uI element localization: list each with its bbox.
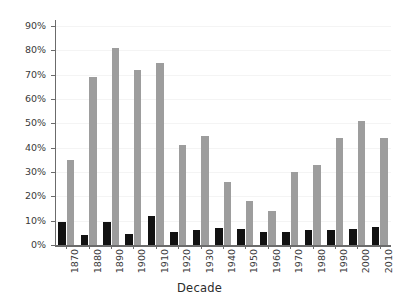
x-axis-tick-label: 1980: [317, 249, 327, 273]
x-axis-tick-mark: [178, 246, 179, 249]
bar-series-1-1950: [237, 229, 245, 245]
bar-series-2-1960: [268, 211, 276, 245]
bar-series-1-1960: [260, 232, 268, 245]
bar-series-1-1890: [103, 222, 111, 245]
x-axis-tick-mark: [357, 246, 358, 249]
plot-area: [55, 20, 391, 245]
bar-group: [260, 20, 276, 245]
bar-series-2-1980: [313, 165, 321, 245]
bar-series-1-1970: [282, 232, 290, 245]
bar-series-1-2000: [349, 229, 357, 245]
bar-series-2-1930: [201, 136, 209, 246]
bar-series-1-1930: [193, 230, 201, 245]
x-axis-tick-mark: [201, 246, 202, 249]
bar-group: [282, 20, 298, 245]
bar-series-1-1990: [327, 230, 335, 245]
bar-series-2-1880: [89, 77, 97, 245]
x-axis-tick-mark: [66, 246, 67, 249]
x-axis-tick-label: 2000: [361, 249, 371, 273]
bar-series-2-1970: [291, 172, 299, 245]
bar-series-1-1980: [305, 230, 313, 245]
bar-series-2-1910: [156, 63, 164, 246]
x-axis-tick-mark: [245, 246, 246, 249]
y-axis-tick-label: 40%: [0, 143, 46, 153]
bar-group: [148, 20, 164, 245]
y-axis-tick-label: 10%: [0, 216, 46, 226]
bar-series-2-2010: [380, 138, 388, 245]
bar-chart: 0%10%20%30%40%50%60%70%80%90% 1870188018…: [0, 0, 399, 305]
bar-group: [103, 20, 119, 245]
x-axis-tick-label: 1990: [339, 249, 349, 273]
y-axis-tick-label: 20%: [0, 192, 46, 202]
bar-group: [193, 20, 209, 245]
bar-series-1-1900: [125, 234, 133, 245]
bar-series-2-1990: [336, 138, 344, 245]
bar-series-1-1880: [81, 235, 89, 245]
x-axis-tick-mark: [89, 246, 90, 249]
bar-series-2-2000: [358, 121, 366, 245]
x-axis-tick-mark: [380, 246, 381, 249]
x-axis-tick-label: 1960: [272, 249, 282, 273]
x-axis-title: Decade: [0, 281, 399, 295]
bar-group: [372, 20, 388, 245]
x-axis-tick-mark: [268, 246, 269, 249]
bar-series-1-1920: [170, 232, 178, 245]
y-axis-tick-label: 80%: [0, 46, 46, 56]
y-axis-tick-label: 70%: [0, 70, 46, 80]
bar-series-1-2010: [372, 227, 380, 245]
bar-group: [305, 20, 321, 245]
x-axis-tick-mark: [111, 246, 112, 249]
x-axis-tick-label: 1890: [115, 249, 125, 273]
bar-group: [58, 20, 74, 245]
bar-group: [215, 20, 231, 245]
y-axis-tick-label: 60%: [0, 94, 46, 104]
bar-series-1-1940: [215, 228, 223, 245]
x-axis-tick-label: 1930: [205, 249, 215, 273]
x-axis-tick-label: 1900: [137, 249, 147, 273]
x-axis-tick-label: 1970: [294, 249, 304, 273]
bar-group: [327, 20, 343, 245]
bar-group: [81, 20, 97, 245]
x-axis-tick-label: 1950: [249, 249, 259, 273]
x-axis-tick-label: 1910: [160, 249, 170, 273]
bar-series-2-1950: [246, 201, 254, 245]
bar-group: [125, 20, 141, 245]
x-axis-tick-label: 1870: [70, 249, 80, 273]
x-axis-tick-label: 2010: [384, 249, 394, 273]
y-axis-tick-label: 0%: [0, 240, 46, 250]
bar-series-1-1910: [148, 216, 156, 245]
x-axis-tick-mark: [156, 246, 157, 249]
x-axis-tick-mark: [133, 246, 134, 249]
x-axis-tick-mark: [223, 246, 224, 249]
bar-group: [349, 20, 365, 245]
bar-group: [237, 20, 253, 245]
bar-group: [170, 20, 186, 245]
y-axis-tick-label: 50%: [0, 119, 46, 129]
bar-series-2-1920: [179, 145, 187, 245]
x-axis-tick-label: 1920: [182, 249, 192, 273]
x-axis-tick-mark: [313, 246, 314, 249]
bar-series-1-1870: [58, 222, 66, 245]
bar-series-2-1890: [112, 48, 120, 245]
y-axis-tick-label: 90%: [0, 21, 46, 31]
bar-series-2-1900: [134, 70, 142, 245]
x-axis-tick-mark: [290, 246, 291, 249]
x-axis-tick-mark: [335, 246, 336, 249]
bar-series-2-1940: [224, 182, 232, 245]
x-axis-tick-label: 1880: [93, 249, 103, 273]
y-axis-tick-label: 30%: [0, 167, 46, 177]
x-axis-tick-label: 1940: [227, 249, 237, 273]
bar-series-2-1870: [67, 160, 75, 245]
